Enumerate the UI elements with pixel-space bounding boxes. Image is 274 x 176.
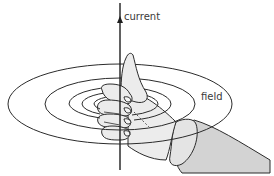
sleeve <box>170 119 270 173</box>
field-label: field <box>201 92 223 102</box>
fingernail <box>124 131 130 136</box>
current-arrow-icon <box>117 16 123 23</box>
right-hand-grip-diagram <box>0 0 274 176</box>
current-label: current <box>124 12 160 22</box>
